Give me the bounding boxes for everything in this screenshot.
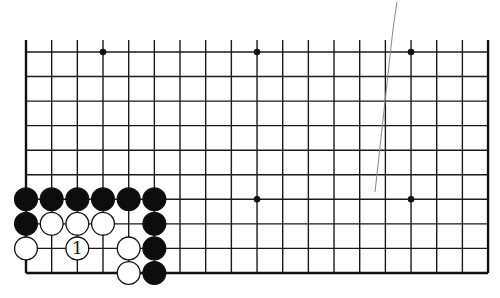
white-stone: 1 <box>66 237 89 260</box>
white-stone-icon <box>92 212 115 235</box>
star-point-icon <box>254 196 261 203</box>
black-stone-icon <box>143 237 166 260</box>
black-stone <box>143 262 166 285</box>
black-stone-icon <box>117 188 140 211</box>
black-stone-icon <box>40 188 63 211</box>
star-point-icon <box>408 49 415 56</box>
black-stone <box>15 212 38 235</box>
white-stone-icon <box>66 212 89 235</box>
white-stone-icon <box>117 237 140 260</box>
black-stone <box>40 188 63 211</box>
white-stone <box>117 237 140 260</box>
black-stone <box>15 188 38 211</box>
black-stone-icon <box>15 212 38 235</box>
black-stone <box>143 212 166 235</box>
board-grid <box>26 40 488 273</box>
white-stone <box>117 262 140 285</box>
white-stone-icon <box>15 237 38 260</box>
star-point-icon <box>254 49 261 56</box>
black-stone-icon <box>143 212 166 235</box>
black-stone <box>117 188 140 211</box>
white-stone <box>66 212 89 235</box>
go-board-diagram: 1 <box>0 0 500 298</box>
white-stone-icon <box>117 262 140 285</box>
black-stone <box>143 188 166 211</box>
black-stone <box>66 188 89 211</box>
white-stone <box>15 237 38 260</box>
stones-layer: 1 <box>15 188 166 284</box>
black-stone <box>143 237 166 260</box>
black-stone <box>92 188 115 211</box>
white-stone <box>40 212 63 235</box>
white-stone-icon <box>40 212 63 235</box>
black-stone-icon <box>92 188 115 211</box>
move-number-label: 1 <box>72 238 83 258</box>
black-stone-icon <box>66 188 89 211</box>
star-point-icon <box>100 49 107 56</box>
black-stone-icon <box>15 188 38 211</box>
white-stone <box>92 212 115 235</box>
black-stone-icon <box>143 188 166 211</box>
star-point-icon <box>408 196 415 203</box>
black-stone-icon <box>143 262 166 285</box>
